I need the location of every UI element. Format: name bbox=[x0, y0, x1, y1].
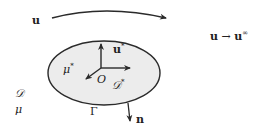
label-D: 𝒟 bbox=[15, 88, 24, 99]
label-u-star-sup: * bbox=[121, 42, 125, 50]
diagram-graphics bbox=[0, 0, 270, 130]
label-D-star-base: 𝒟 bbox=[112, 79, 121, 92]
label-u-star: u* bbox=[113, 43, 125, 55]
label-mu-star: μ* bbox=[63, 63, 74, 75]
label-u-star-base: u bbox=[113, 43, 121, 56]
diagram-canvas: u u → u∞ u* μ* O 𝒟* 𝒟 μ Γ n bbox=[0, 0, 270, 130]
label-mu: μ bbox=[15, 104, 22, 115]
label-u-far: u bbox=[32, 15, 40, 26]
label-u-limit-sup: ∞ bbox=[242, 29, 248, 37]
label-origin: O bbox=[97, 74, 106, 85]
label-Gamma: Γ bbox=[90, 106, 98, 117]
normal-vector bbox=[128, 103, 130, 121]
label-u-limit-lhs: u bbox=[210, 30, 218, 43]
label-D-star: 𝒟* bbox=[112, 79, 125, 91]
label-normal-n: n bbox=[136, 114, 144, 125]
label-limit-arrow: → bbox=[222, 30, 231, 43]
label-D-star-sup: * bbox=[121, 78, 125, 86]
label-mu-star-sup: * bbox=[70, 62, 74, 70]
label-u-limit: u → u∞ bbox=[210, 30, 248, 42]
flow-arrow bbox=[52, 11, 166, 18]
